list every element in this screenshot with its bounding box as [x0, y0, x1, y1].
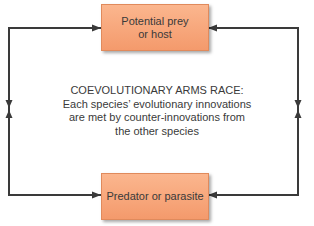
arrow-head-icon [6, 100, 13, 108]
arrow-head-icon [295, 100, 302, 108]
arrow-head-icon [6, 110, 13, 118]
caption-line: the other species [50, 125, 264, 139]
prey-host-label: Potential prey or host [115, 15, 195, 41]
arrow-head-icon [295, 110, 302, 118]
arrow-head-icon [208, 192, 217, 199]
caption-line: Each species’ evolutionary innovations [50, 98, 264, 112]
caption-line: are met by counter-innovations from [50, 111, 264, 125]
caption-title: COEVOLUTIONARY ARMS RACE: [50, 84, 264, 98]
predator-parasite-box: Predator or parasite [101, 173, 209, 220]
arms-race-caption: COEVOLUTIONARY ARMS RACE: Each species’ … [50, 84, 264, 138]
arrow-head-icon [92, 25, 101, 32]
arrow-head-icon [92, 192, 101, 199]
prey-host-box: Potential prey or host [101, 4, 209, 51]
arrow-head-icon [208, 25, 217, 32]
predator-parasite-label: Predator or parasite [106, 190, 203, 203]
